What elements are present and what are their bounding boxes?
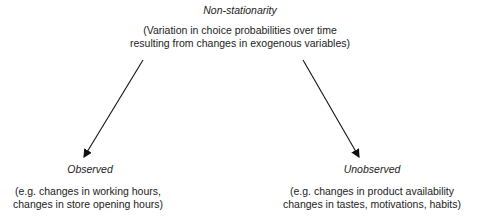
arrow-to-unobserved xyxy=(303,60,359,157)
unobserved-desc-line2: changes in tastes, motivations, habits) xyxy=(272,198,472,211)
arrow-to-observed xyxy=(84,60,143,157)
observed-description: (e.g. changes in working hours, changes … xyxy=(0,185,176,211)
unobserved-description: (e.g. changes in product availability ch… xyxy=(272,185,472,211)
unobserved-title: Unobserved xyxy=(322,163,422,176)
unobserved-desc-line1: (e.g. changes in product availability xyxy=(272,185,472,198)
observed-title: Observed xyxy=(20,163,160,176)
observed-desc-line2: changes in store opening hours) xyxy=(0,198,176,211)
observed-desc-line1: (e.g. changes in working hours, xyxy=(0,185,176,198)
